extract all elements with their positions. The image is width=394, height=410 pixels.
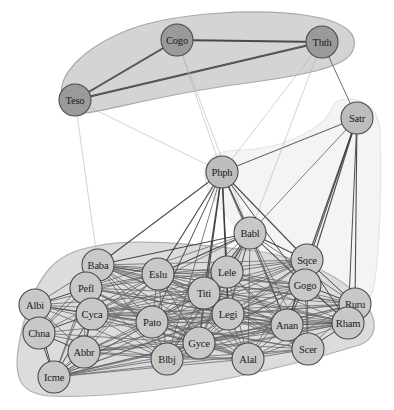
graph-node-gyce[interactable]: Gyce [183, 327, 215, 359]
node-circle[interactable] [76, 298, 108, 330]
node-circle[interactable] [23, 317, 55, 349]
node-circle[interactable] [306, 26, 338, 58]
graph-node-legi[interactable]: Legi [212, 298, 244, 330]
node-circle[interactable] [341, 102, 373, 134]
graph-node-cyca[interactable]: Cyca [76, 298, 108, 330]
node-circle[interactable] [136, 306, 168, 338]
node-circle[interactable] [68, 336, 100, 368]
node-circle[interactable] [232, 343, 264, 375]
graph-node-pato[interactable]: Pato [136, 306, 168, 338]
node-circle[interactable] [161, 24, 193, 56]
graph-node-rham[interactable]: Rham [332, 307, 364, 339]
graph-node-thth[interactable]: Thth [306, 26, 338, 58]
node-circle[interactable] [38, 361, 70, 393]
graph-node-satr[interactable]: Satr [341, 102, 373, 134]
graph-node-cogo[interactable]: Cogo [161, 24, 193, 56]
graph-node-phph[interactable]: Phph [206, 156, 238, 188]
node-circle[interactable] [212, 298, 244, 330]
graph-node-scer[interactable]: Scer [292, 333, 324, 365]
node-circle[interactable] [151, 343, 183, 375]
graph-node-alal[interactable]: Alal [232, 343, 264, 375]
graph-node-teso[interactable]: Teso [59, 84, 91, 116]
node-circle[interactable] [332, 307, 364, 339]
node-circle[interactable] [142, 258, 174, 290]
node-circle[interactable] [234, 217, 266, 249]
graph-node-babl[interactable]: Babl [234, 217, 266, 249]
node-circle[interactable] [19, 289, 51, 321]
node-circle[interactable] [292, 333, 324, 365]
node-circle[interactable] [206, 156, 238, 188]
node-circle[interactable] [289, 269, 321, 301]
graph-node-gogo[interactable]: Gogo [289, 269, 321, 301]
graph-node-icme[interactable]: Icme [38, 361, 70, 393]
network-graph-canvas: CogoThthTesoSatrPhphBablSqceBabaEsluLele… [0, 0, 394, 410]
graph-node-chna[interactable]: Chna [23, 317, 55, 349]
graph-node-albi[interactable]: Albi [19, 289, 51, 321]
graph-node-blbj[interactable]: Blbj [151, 343, 183, 375]
node-circle[interactable] [59, 84, 91, 116]
graph-node-eslu[interactable]: Eslu [142, 258, 174, 290]
graph-node-abbr[interactable]: Abbr [68, 336, 100, 368]
node-circle[interactable] [183, 327, 215, 359]
network-graph-figure: CogoThthTesoSatrPhphBablSqceBabaEsluLele… [0, 0, 394, 410]
